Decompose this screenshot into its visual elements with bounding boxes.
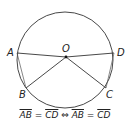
segment-od [66,53,114,57]
caption-cd-segment: CD [45,110,58,120]
segment-ao [17,53,66,57]
center-point [65,56,68,59]
caption-ab-segment: AB [20,110,32,120]
caption-eq: = [32,110,45,120]
chord-dc [106,53,114,88]
label-c: C [106,89,113,100]
label-b: B [19,89,26,100]
segment-ob [26,57,66,88]
label-a: A [6,47,14,58]
label-o: O [62,43,70,54]
circle [17,12,113,108]
caption-ab-arc: AB [72,110,84,120]
caption-iff: ⇔ [58,110,71,120]
caption-eq2: = [84,110,97,120]
label-d: D [117,47,125,58]
segment-oc [66,57,106,88]
caption-cd-arc: CD [97,110,110,120]
caption: AB = CD ⇔ AB = CD [0,110,130,120]
